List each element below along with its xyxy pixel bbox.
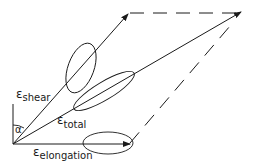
- elongation-label: εelongation: [33, 145, 93, 161]
- shear-label: εshear: [16, 87, 51, 103]
- total-vector-arrow: [13, 12, 241, 144]
- strain-vector-diagram: εshear εtotal εelongation α: [0, 0, 253, 168]
- shear-ellipse: [60, 39, 102, 97]
- total-label: εtotal: [57, 113, 86, 130]
- angle-alpha-label: α: [15, 124, 22, 135]
- dashed-diagonal-line: [130, 26, 230, 143]
